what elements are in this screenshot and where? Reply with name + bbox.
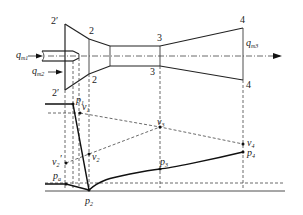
v2-point: [88, 153, 91, 156]
label-4-top: 4: [240, 14, 245, 25]
velocity-upper-curve: [80, 113, 243, 144]
diffuser-bottom: [160, 66, 243, 80]
label-p2: p2: [84, 195, 93, 207]
pressure-recovery-curve: [89, 152, 243, 190]
converging-bottom: [89, 66, 110, 74]
label-qm1: qm1: [16, 49, 28, 61]
converging-top: [89, 39, 110, 46]
label-pa: pa: [52, 170, 61, 182]
suction-cone-bottom: [65, 74, 89, 90]
label-v1: v1: [82, 101, 89, 113]
label-v2prime: v2′: [52, 153, 62, 168]
p2-point: [88, 189, 91, 192]
label-3-top: 3: [157, 32, 162, 43]
label-v3: v3: [157, 116, 164, 128]
pressure-nozzle-drop: [45, 104, 89, 190]
label-2-bottom: 2: [92, 74, 97, 85]
qm2-arrow-icon: [56, 70, 63, 75]
label-2prime-bottom: 2′: [52, 87, 59, 98]
label-3-bottom: 3: [150, 66, 155, 77]
p1-point: [72, 103, 75, 106]
p3-point: [159, 168, 162, 171]
jet-pump-diagram: 2′ 2 2 2′ 3 3 4 4 qm1 qm2 qm3 p1 v1 v2′ …: [0, 0, 303, 215]
pa-point: [65, 183, 68, 186]
label-qm3: qm3: [246, 37, 258, 49]
label-p3: p3: [159, 156, 168, 168]
qm1-arrow-icon: [36, 54, 43, 59]
v2prime-point: [65, 162, 68, 165]
label-4-bottom: 4: [246, 79, 251, 90]
label-qm2: qm2: [32, 65, 44, 77]
suction-cone-top: [65, 24, 89, 39]
p4-point: [242, 151, 245, 154]
outlet-arrow-icon: [273, 53, 282, 59]
label-v2: v2: [92, 151, 99, 163]
label-2prime-top: 2′: [51, 15, 58, 26]
v4-point: [242, 143, 245, 146]
diffuser-top: [160, 28, 243, 46]
label-2-top: 2: [89, 25, 94, 36]
